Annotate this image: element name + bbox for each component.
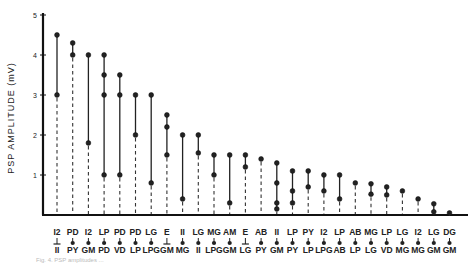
x-category-labels: I2IIPDPYI2GMLPPDPDVDPDLPLGLPGEGMIIMGLGII…: [53, 227, 456, 255]
presynaptic-label: AB: [349, 227, 361, 237]
synapse-label: LGII: [192, 227, 204, 255]
synapse-column-i2-gm: [86, 53, 91, 214]
synapse-column-lp-ab: [337, 173, 342, 214]
synapse-label: LGLPG: [142, 227, 160, 255]
presynaptic-label: E: [243, 227, 249, 237]
postsynaptic-label: PD: [98, 245, 110, 255]
data-point: [165, 125, 170, 130]
data-point: [165, 153, 170, 158]
synapse-column-i2-lpg: [322, 173, 327, 214]
data-point: [431, 201, 436, 206]
figure-caption: Fig. 4. PSP amplitudes ...: [36, 257, 104, 263]
synapse-column-mg-lpg: [212, 153, 217, 214]
synapse-label: PYLP: [303, 227, 315, 255]
data-point: [102, 53, 107, 58]
data-point: [369, 181, 374, 186]
postsynaptic-label: II: [196, 245, 201, 255]
data-point: [212, 153, 217, 158]
synapse-column-i2-mg: [416, 197, 421, 214]
y-tick-label: 2: [33, 132, 37, 139]
data-point: [149, 181, 154, 186]
synapse-label: AMGM: [223, 227, 237, 255]
postsynaptic-label: VD: [381, 245, 393, 255]
data-point: [369, 192, 374, 197]
data-point: [180, 197, 185, 202]
presynaptic-label: II: [180, 227, 185, 237]
synapse-label: LPAB: [333, 227, 345, 255]
data-point: [243, 165, 248, 170]
data-point: [212, 173, 217, 178]
data-point: [102, 73, 107, 78]
synapse-column-mg-lg: [369, 181, 374, 214]
synapse-label: DGGM: [443, 227, 457, 255]
synapse-label: LGMG: [396, 227, 410, 255]
presynaptic-label: LG: [396, 227, 408, 237]
synapse-label: I2GM: [82, 227, 96, 255]
y-axis-label: PSP AMPLITUDE (mV): [6, 62, 16, 173]
synapse-column-ii-mg: [180, 133, 185, 214]
presynaptic-label: DG: [443, 227, 456, 237]
data-point: [133, 93, 138, 98]
data-point: [165, 113, 170, 118]
data-point: [353, 181, 358, 186]
data-point: [431, 209, 436, 214]
data-point: [274, 201, 279, 206]
psp-amplitude-chart: 12345PSP AMPLITUDE (mV) I2IIPDPYI2GMLPPD…: [0, 0, 476, 268]
synapse-label: LPVD: [381, 227, 393, 255]
presynaptic-label: I2: [320, 227, 327, 237]
synapse-label: I2LPG: [315, 227, 333, 255]
postsynaptic-label: GM: [82, 245, 96, 255]
synapse-column-lp-vd: [384, 185, 389, 214]
postsynaptic-label: MG: [411, 245, 425, 255]
synapse-label: LPPY: [287, 227, 299, 255]
presynaptic-label: LG: [192, 227, 204, 237]
presynaptic-label: LP: [99, 227, 110, 237]
data-point: [55, 93, 60, 98]
data-point: [447, 211, 452, 216]
presynaptic-label: LP: [334, 227, 345, 237]
synapse-column-e-gm: [165, 113, 170, 214]
data-point: [70, 41, 75, 46]
data-point: [290, 169, 295, 174]
synapse-column-ii-gm: [274, 161, 279, 214]
synapse-label: IIMG: [176, 227, 190, 255]
postsynaptic-label: GM: [270, 245, 284, 255]
data-point: [337, 197, 342, 202]
presynaptic-label: I2: [415, 227, 422, 237]
synapse-column-lg-lpg: [149, 93, 154, 214]
synapse-label: LGGM: [427, 227, 441, 255]
data-point: [274, 161, 279, 166]
data-point: [384, 185, 389, 190]
postsynaptic-label: GM: [443, 245, 457, 255]
data-point: [243, 153, 248, 158]
y-tick-label: 4: [33, 52, 37, 59]
postsynaptic-label: GM: [223, 245, 237, 255]
synapse-column-lg-ii: [196, 133, 201, 214]
postsynaptic-label: LPG: [142, 245, 160, 255]
axes: 12345PSP AMPLITUDE (mV): [6, 12, 468, 216]
data-point: [400, 189, 405, 194]
synapse-column-ab-lp: [353, 181, 358, 214]
data-point: [322, 173, 327, 178]
synapse-label: ABPY: [255, 227, 267, 255]
synapse-label: MGLG: [364, 227, 378, 255]
postsynaptic-label: II: [55, 245, 60, 255]
presynaptic-label: LP: [287, 227, 298, 237]
presynaptic-label: I2: [53, 227, 60, 237]
presynaptic-label: PY: [303, 227, 315, 237]
synapse-label: PDVD: [114, 227, 126, 255]
data-point: [290, 189, 295, 194]
data-point: [102, 93, 107, 98]
synapse-column-ab-py: [259, 157, 264, 214]
postsynaptic-label: LG: [365, 245, 377, 255]
data-point: [337, 173, 342, 178]
data-point: [86, 141, 91, 146]
presynaptic-label: AB: [255, 227, 267, 237]
synapse-label: I2II: [53, 227, 60, 255]
presynaptic-label: I2: [85, 227, 92, 237]
y-tick-label: 5: [33, 12, 37, 19]
data-point: [227, 201, 232, 206]
y-tick-label: 3: [33, 92, 37, 99]
presynaptic-label: II: [274, 227, 279, 237]
presynaptic-label: MG: [207, 227, 221, 237]
